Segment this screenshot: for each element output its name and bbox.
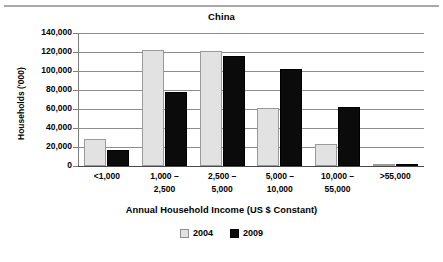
- bar-group: [366, 33, 424, 166]
- bar-group: [251, 33, 309, 166]
- bar-2004: [142, 50, 164, 166]
- x-axis-tick-label: 10,000 – 55,000: [309, 170, 367, 195]
- x-axis-tick-label: <1,000: [78, 170, 136, 183]
- bar-2009: [165, 92, 187, 166]
- y-axis-tick: [73, 166, 78, 167]
- bar-2009: [280, 69, 302, 166]
- y-axis-tick: [73, 128, 78, 129]
- y-axis-tick-label: 0: [67, 160, 72, 170]
- y-axis-tick-label: 100,000: [41, 65, 72, 75]
- bar-2009: [396, 164, 418, 166]
- bar-group: [136, 33, 194, 166]
- plot-area: [78, 33, 424, 166]
- y-axis-tick-label: 120,000: [41, 46, 72, 56]
- bar-2004: [84, 139, 106, 166]
- bar-group: [309, 33, 367, 166]
- y-axis-tick-label: 40,000: [46, 122, 72, 132]
- bar-2009: [223, 56, 245, 166]
- x-axis-tick-label: 1,000 – 2,500: [136, 170, 194, 195]
- x-axis-tick-label: 2,500 – 5,000: [193, 170, 251, 195]
- bar-2004: [200, 51, 222, 166]
- legend-label: 2009: [243, 228, 263, 238]
- legend-swatch-icon: [230, 229, 239, 238]
- legend-item-2009[interactable]: 2009: [230, 228, 263, 238]
- bar-2004: [315, 144, 337, 166]
- chart-legend: 20042009: [0, 228, 443, 238]
- x-axis-tick-label: >55,000: [366, 170, 424, 183]
- y-axis-tick: [73, 52, 78, 53]
- legend-item-2004[interactable]: 2004: [180, 228, 213, 238]
- bar-group: [78, 33, 136, 166]
- y-axis-tick: [73, 71, 78, 72]
- x-axis-title: Annual Household Income (US $ Constant): [0, 205, 443, 215]
- bar-2009: [338, 107, 360, 166]
- bar-group: [193, 33, 251, 166]
- chart-figure: China Households ('000) 020,00040,00060,…: [0, 0, 443, 262]
- y-axis-tick: [73, 33, 78, 34]
- y-axis-tick: [73, 109, 78, 110]
- bar-2009: [107, 150, 129, 166]
- y-axis-tick-labels: 020,00040,00060,00080,000100,000120,0001…: [0, 0, 72, 262]
- y-axis-tick-label: 60,000: [46, 103, 72, 113]
- legend-label: 2004: [193, 228, 213, 238]
- bar-2004: [257, 108, 279, 166]
- y-axis-tick: [73, 90, 78, 91]
- y-axis-tick-label: 80,000: [46, 84, 72, 94]
- x-axis-tick-label: 5,000 – 10,000: [251, 170, 309, 195]
- legend-swatch-icon: [180, 229, 189, 238]
- gridline: [78, 166, 424, 167]
- x-axis-tick-labels: <1,0001,000 – 2,5002,500 – 5,0005,000 – …: [78, 170, 424, 206]
- bar-2004: [373, 164, 395, 166]
- y-axis-tick: [73, 147, 78, 148]
- y-axis-tick-label: 20,000: [46, 141, 72, 151]
- y-axis-tick-label: 140,000: [41, 27, 72, 37]
